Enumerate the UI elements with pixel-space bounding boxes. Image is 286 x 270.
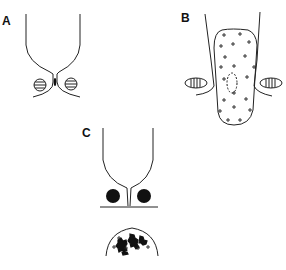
striped-circle-left [34, 79, 46, 91]
striped-ellipse-left [185, 78, 207, 88]
striped-circle-right [65, 78, 77, 90]
diagram-canvas [0, 0, 286, 270]
dark-clusters [116, 234, 147, 255]
panel-c [100, 128, 158, 256]
panel-b [185, 12, 282, 125]
panel-b-outer-wall-left [196, 14, 214, 95]
black-circle-right [137, 189, 151, 203]
striped-ellipse-right [260, 78, 282, 88]
panel-b-dashed-oval [227, 73, 237, 93]
panel-a [26, 14, 80, 97]
black-circle-left [106, 189, 120, 203]
plus-signs [218, 32, 256, 122]
neck-dark-mark [54, 78, 57, 86]
